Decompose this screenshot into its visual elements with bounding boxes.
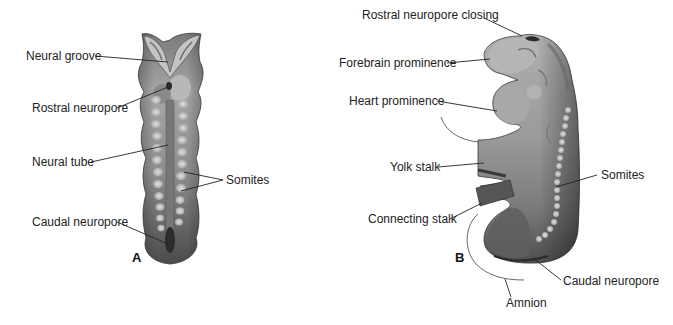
- label-somites-a: Somites: [226, 173, 269, 187]
- label-amnion: Amnion: [506, 296, 547, 310]
- label-heart-prominence: Heart prominence: [349, 94, 444, 108]
- embryo-b: [441, 34, 580, 280]
- label-rostral-neuropore: Rostral neuropore: [32, 101, 128, 115]
- embryo-figure: Neural groove Rostral neuropore Neural t…: [0, 0, 673, 325]
- label-neural-groove: Neural groove: [26, 49, 101, 63]
- label-somites-b: Somites: [601, 168, 644, 182]
- label-neural-tube: Neural tube: [32, 155, 94, 169]
- label-caudal-neuropore-a: Caudal neuropore: [32, 215, 128, 229]
- label-forebrain-prominence: Forebrain prominence: [339, 56, 456, 70]
- panel-letter-b: B: [455, 251, 464, 265]
- label-connecting-stalk: Connecting stalk: [368, 212, 457, 226]
- label-rostral-neuropore-closing: Rostral neuropore closing: [362, 8, 499, 22]
- embryo-a: [138, 33, 203, 264]
- label-yolk-stalk: Yolk stalk: [390, 160, 440, 174]
- panel-letter-a: A: [132, 251, 141, 265]
- label-caudal-neuropore-b: Caudal neuropore: [563, 274, 659, 288]
